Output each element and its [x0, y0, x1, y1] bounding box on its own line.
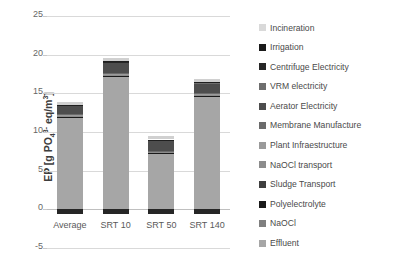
bar-segment[interactable] — [103, 73, 129, 74]
bar-segment[interactable] — [148, 154, 174, 210]
bar-segment[interactable] — [194, 82, 220, 83]
legend-item[interactable]: Incineration — [259, 18, 397, 38]
y-axis-tick-mark — [43, 171, 47, 172]
bar-segment[interactable] — [194, 79, 220, 82]
legend-label: Effluent — [270, 239, 299, 248]
legend-label: Sludge Transport — [270, 180, 335, 189]
legend-swatch-icon — [259, 240, 266, 247]
y-axis-tick-label: 25 — [7, 9, 43, 19]
bar-segment[interactable] — [57, 115, 83, 116]
legend-swatch-icon — [259, 122, 266, 129]
legend-label: Polyelectrolyte — [270, 200, 326, 209]
bar-segment-negative[interactable] — [103, 209, 129, 213]
bar-segment[interactable] — [103, 76, 129, 209]
legend-item[interactable]: Membrane Manufacture — [259, 116, 397, 136]
bar-segment[interactable] — [57, 114, 83, 115]
bar-segment[interactable] — [148, 152, 174, 153]
legend-swatch-icon — [259, 24, 266, 31]
y-axis-tick-mark — [43, 93, 47, 94]
y-axis-tick-mark — [43, 209, 47, 210]
legend-label: Incineration — [270, 24, 314, 33]
bar-segment[interactable] — [57, 106, 83, 114]
bar-segment[interactable] — [103, 74, 129, 75]
legend-label: Centrifuge Electricity — [270, 63, 349, 72]
bar-segment[interactable] — [194, 93, 220, 94]
legend-swatch-icon — [259, 103, 266, 110]
legend-item[interactable]: Aerator Electricity — [259, 96, 397, 116]
bar-segment[interactable] — [148, 141, 174, 151]
legend-label: Plant Infraestructure — [270, 141, 347, 150]
legend-label: Aerator Electricity — [270, 102, 337, 111]
bar-segment[interactable] — [57, 117, 83, 209]
legend-item[interactable]: Polyelectrolyte — [259, 194, 397, 214]
y-axis-tick-label: 5 — [7, 164, 43, 174]
y-axis-tick-label: 15 — [7, 86, 43, 96]
legend-item[interactable]: NaOCl transport — [259, 155, 397, 175]
legend-item[interactable]: Irrigation — [259, 38, 397, 58]
bar-segment[interactable] — [148, 151, 174, 152]
plot-area: 2520151050-5AverageSRT 10SRT 50SRT 140 — [47, 16, 230, 248]
legend-label: Membrane Manufacture — [270, 121, 361, 130]
bar-segment[interactable] — [194, 94, 220, 95]
chart-container: EP [g PO43- eq/m3] 2520151050-5AverageSR… — [0, 0, 399, 273]
y-axis-tick-mark — [43, 132, 47, 133]
y-axis-tick-label: 20 — [7, 48, 43, 58]
legend-item[interactable]: Centrifuge Electricity — [259, 57, 397, 77]
y-axis-tick-mark — [43, 16, 47, 17]
legend-swatch-icon — [259, 142, 266, 149]
y-axis-tick-label: 0 — [7, 202, 43, 212]
bar-segment[interactable] — [194, 96, 220, 209]
bar-segment-negative[interactable] — [148, 209, 174, 213]
bar-segment-negative[interactable] — [194, 209, 220, 213]
legend-label: VRM electricity — [270, 82, 327, 91]
legend-swatch-icon — [259, 201, 266, 208]
legend-swatch-icon — [259, 181, 266, 188]
legend-swatch-icon — [259, 161, 266, 168]
bar-segment[interactable] — [148, 136, 174, 139]
bar-segment[interactable] — [57, 116, 83, 117]
bar-column[interactable] — [103, 16, 129, 248]
y-axis-tick-label: 10 — [7, 125, 43, 135]
legend-item[interactable]: Sludge Transport — [259, 175, 397, 195]
y-axis-tick-mark — [43, 248, 47, 249]
y-axis-tick-mark — [43, 55, 47, 56]
legend-swatch-icon — [259, 83, 266, 90]
bar-segment[interactable] — [148, 140, 174, 141]
legend-item[interactable]: VRM electricity — [259, 77, 397, 97]
legend-swatch-icon — [259, 63, 266, 70]
bar-segment[interactable] — [57, 102, 83, 105]
chart-legend: IncinerationIrrigationCentrifuge Electri… — [259, 18, 397, 253]
legend-item[interactable]: NaOCl — [259, 214, 397, 234]
legend-swatch-icon — [259, 220, 266, 227]
bar-column[interactable] — [57, 16, 83, 248]
bar-segment[interactable] — [194, 95, 220, 96]
bar-segment[interactable] — [194, 83, 220, 93]
bar-segment[interactable] — [103, 58, 129, 61]
legend-item[interactable]: Plant Infraestructure — [259, 136, 397, 156]
bar-segment[interactable] — [57, 105, 83, 106]
bar-segment[interactable] — [103, 75, 129, 76]
bar-segment-negative[interactable] — [57, 209, 83, 213]
bar-segment[interactable] — [103, 61, 129, 62]
x-axis-tick-label: SRT 140 — [175, 220, 239, 230]
legend-label: NaOCl transport — [270, 161, 332, 170]
bar-segment[interactable] — [103, 63, 129, 73]
legend-swatch-icon — [259, 44, 266, 51]
legend-label: Irrigation — [270, 43, 303, 52]
gridline — [47, 248, 230, 249]
bar-column[interactable] — [194, 16, 220, 248]
legend-item[interactable]: Effluent — [259, 234, 397, 254]
legend-label: NaOCl — [270, 219, 296, 228]
y-axis-tick-label: -5 — [7, 241, 43, 251]
bar-column[interactable] — [148, 16, 174, 248]
bar-segment[interactable] — [148, 151, 174, 152]
